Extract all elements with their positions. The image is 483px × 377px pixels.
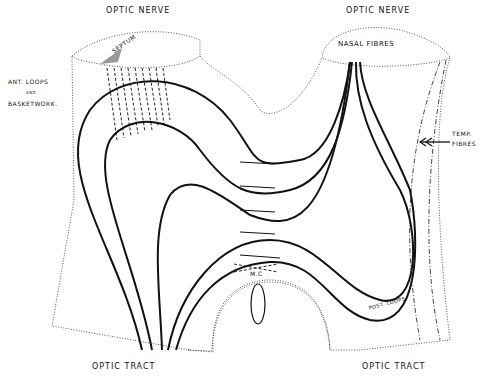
nerve-fibres [78,62,415,350]
basketwork-dashes [107,68,170,140]
label-optic-tract-right: OPTIC TRACT [362,362,425,371]
label-nasal-fibres: NASAL FIBRES [338,40,394,48]
label-optic-nerve-left: OPTIC NERVE [106,6,170,15]
tract-inner-outline [188,282,330,351]
label-ant-loops: ANT. LOOPS [8,78,48,85]
temporal-fibre-1 [410,62,440,340]
ventricle-recess [251,284,265,324]
label-optic-tract-left: OPTIC TRACT [92,362,155,371]
diagram-drawing [0,0,483,377]
label-mc: M.C [250,270,263,277]
label-temp: TEMP. [452,130,472,137]
label-fibres: FIBRES [452,140,476,147]
temporal-fibre-2 [429,60,446,340]
label-ant-loops-and: AND [26,90,36,95]
label-optic-nerve-right: OPTIC NERVE [346,6,410,15]
chiasm-diagram: OPTIC NERVE OPTIC NERVE SEPTUM NASAL FIB… [0,0,483,377]
label-basketwork: BASKETWORK. [8,100,58,107]
